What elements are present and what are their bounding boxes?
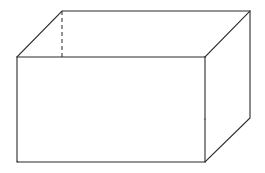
- front-face-overlay: [18, 58, 205, 162]
- rectangular-prism-drawing: [0, 0, 265, 173]
- figure-canvas: [0, 0, 265, 173]
